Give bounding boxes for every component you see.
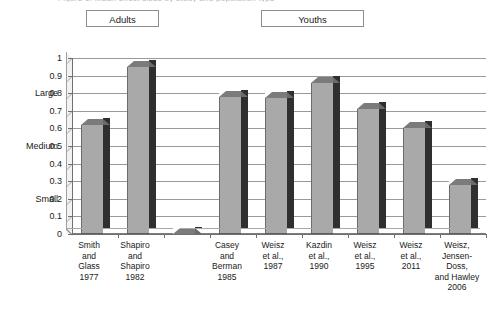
y-axis-tick-label: 0.6 [49,123,62,133]
y-axis-tick-label: 0.9 [49,71,62,81]
x-axis-label-line: Smith [63,240,115,251]
x-axis-label-line: and [63,251,115,262]
x-axis-label-line: and Hawley [431,272,483,283]
y-axis-tick-label: 0.3 [49,176,62,186]
x-axis-tick-mark [486,234,487,238]
y-axis-back-line [66,52,67,228]
x-axis-label-line: and [201,251,253,262]
y-axis-tick-label: 0.5 [49,141,62,151]
x-axis-label-line: et al., [385,251,437,262]
x-axis-label-line: 1990 [293,261,345,272]
bar[interactable] [311,83,333,234]
bar[interactable] [403,128,425,234]
group-label-adults: Adults [86,10,159,27]
x-axis-labels: SmithandGlass1977ShapiroandShapiro1982Ca… [66,240,486,318]
x-axis-label-line: and [109,251,161,262]
x-axis-label: CaseyandBerman1985 [201,240,253,282]
figure-title-remnant: Figure 1. Mean effect sizes by study and… [58,0,318,2]
y-axis-tick-label: 0 [57,229,62,239]
bar-front-face [357,109,379,234]
bar-side-face [471,178,478,228]
plot-area [66,52,486,234]
bar[interactable] [81,125,103,234]
x-axis-line [72,234,486,235]
x-axis-label-line: Casey [201,240,253,251]
x-axis-label-line: Doss, [431,261,483,272]
bar-front-face [311,83,333,234]
bar-slot [394,58,440,234]
x-axis-label: SmithandGlass1977 [63,240,115,282]
y-axis-tick-label: 0.2 [49,194,62,204]
bar-top-face [449,179,471,185]
bar-slot [210,58,256,234]
x-axis-label-line: 1985 [201,272,253,283]
bar-top-face [311,77,333,83]
bar-side-face [149,60,156,228]
x-axis-label: Weiszet al.,1995 [339,240,391,272]
y-axis-tick-label: 0.8 [49,88,62,98]
bar-front-face [403,128,425,234]
bar-slot [302,58,348,234]
x-axis-label-line: Glass [63,261,115,272]
bar-side-face [425,121,432,228]
bar-side-face [333,76,340,228]
bar-top-face [219,91,241,97]
x-axis-label-line: et al., [247,251,299,262]
x-axis-label: Weiszet al.,1987 [247,240,299,272]
x-axis-label-line: 1977 [63,272,115,283]
bar-slot [348,58,394,234]
bar-side-face [287,91,294,228]
bar-side-face [103,118,110,228]
bar-front-face [265,98,287,234]
x-axis-label-line: Weisz [247,240,299,251]
bar[interactable] [265,98,287,234]
x-axis-label-line: Weisz [385,240,437,251]
x-axis-label: Weisz,Jensen-Doss,and Hawley2006 [431,240,483,293]
bar[interactable] [357,109,379,234]
y-axis-tick-label: 0.4 [49,159,62,169]
x-axis-label-line: 1995 [339,261,391,272]
bar-front-face [219,97,241,234]
bar-front-face [449,185,471,234]
x-axis-label-line: Berman [201,261,253,272]
y-axis-tick-label: 0.1 [49,211,62,221]
bar-slot [440,58,486,234]
x-axis-label-line: Shapiro [109,240,161,251]
x-axis-label-line: 1982 [109,272,161,283]
x-axis-label-line: Kazdin [293,240,345,251]
bar[interactable] [449,185,471,234]
x-axis-label: Weiszet al.,2011 [385,240,437,272]
bar-top-face [403,122,425,128]
bar-slot [164,58,210,234]
x-axis-label-line: Jensen- [431,251,483,262]
bar-front-face [127,67,149,234]
x-axis-label-line: et al., [293,251,345,262]
bar-side-face [241,90,248,228]
y-axis-tick-labels: 10.90.80.70.60.50.40.30.20.10 [30,0,62,318]
y-axis-tick-label: 0.7 [49,106,62,116]
bar-top-face [127,61,149,67]
x-axis-label-line: Weisz, [431,240,483,251]
bar[interactable] [219,97,241,234]
x-axis-label-line: 1987 [247,261,299,272]
bar-side-face [379,102,386,228]
bar-slot [256,58,302,234]
x-axis-back-line [66,228,480,229]
chart-figure: Figure 1. Mean effect sizes by study and… [0,0,499,318]
x-axis-label-line: Shapiro [109,261,161,272]
bar-top-face [265,92,287,98]
x-axis-label: Kazdinet al.,1990 [293,240,345,272]
x-axis-label-line: et al., [339,251,391,262]
x-axis-label: ShapiroandShapiro1982 [109,240,161,282]
bar-top-face [357,103,379,109]
bar-top-face [81,119,103,125]
bar-slot [72,58,118,234]
bar-front-face [81,125,103,234]
bar[interactable] [127,67,149,234]
group-label-youths: Youths [261,10,364,27]
x-axis-label-line: 2006 [431,282,483,293]
x-axis-label-line: Weisz [339,240,391,251]
bar-slot [118,58,164,234]
x-axis-label-line: 2011 [385,261,437,272]
y-axis-tick-label: 1 [57,53,62,63]
